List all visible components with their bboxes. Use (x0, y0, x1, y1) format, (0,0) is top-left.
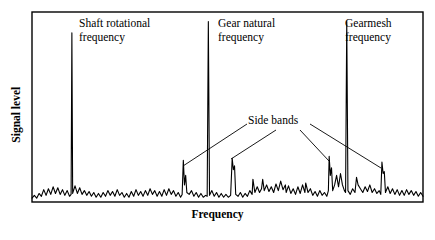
vibration-spectrum-figure: Shaft rotational frequency Gear natural … (0, 0, 435, 240)
annotation-shaft-rotational-frequency: Shaft rotational frequency (79, 17, 150, 44)
annotation-gear-natural-frequency: Gear natural frequency (218, 17, 275, 44)
x-axis-label: Frequency (0, 208, 435, 222)
annotation-side-bands: Side bands (248, 114, 298, 128)
annotation-gearmesh-frequency: Gearmesh frequency (345, 17, 392, 44)
y-axis-label: Signal level (10, 65, 24, 165)
